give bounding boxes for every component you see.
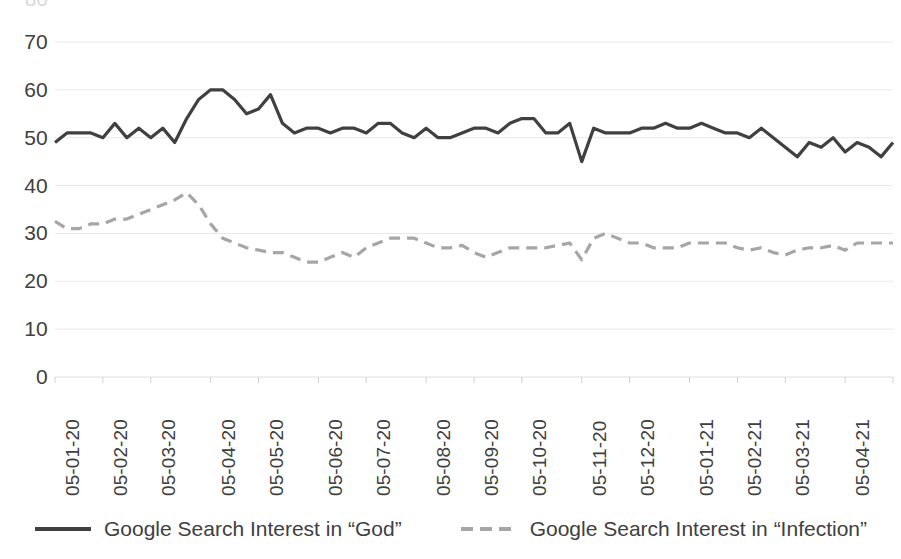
x-axis-tick-label-text: 05-03-21 bbox=[793, 392, 813, 496]
x-axis: 05-01-2005-02-2005-03-2005-04-2005-05-20… bbox=[0, 392, 901, 500]
x-axis-tick-label-text: 05-07-20 bbox=[374, 392, 394, 496]
x-axis-tick-label-text: 05-08-20 bbox=[434, 392, 454, 496]
x-axis-tick-label: 05-06-20 bbox=[326, 392, 346, 496]
y-axis-tick-label: 0 bbox=[4, 366, 48, 387]
y-axis-clipped-tick-label: 80 bbox=[4, 0, 48, 9]
x-axis-tick-label: 05-10-20 bbox=[530, 392, 550, 496]
plot-area bbox=[0, 0, 901, 392]
y-axis-tick-label: 10 bbox=[4, 318, 48, 339]
y-axis-tick-label: 40 bbox=[4, 175, 48, 196]
legend-item-infection[interactable]: Google Search Interest in “Infection” bbox=[460, 517, 867, 541]
legend-label-god: Google Search Interest in “God” bbox=[104, 517, 402, 541]
y-axis-tick-label: 20 bbox=[4, 270, 48, 291]
chart-canvas bbox=[0, 0, 901, 392]
x-axis-tick-label: 05-04-21 bbox=[853, 392, 873, 496]
google-trends-line-chart: 80 010203040506070 05-01-2005-02-2005-03… bbox=[0, 0, 901, 559]
series-line-god bbox=[55, 90, 893, 162]
legend-swatch-dashed-line bbox=[460, 522, 518, 536]
x-axis-tick-label-text: 05-02-21 bbox=[745, 392, 765, 496]
gridlines bbox=[55, 42, 893, 377]
x-axis-tick-label: 05-01-21 bbox=[697, 392, 717, 496]
x-axis-tick-label-text: 05-09-20 bbox=[482, 392, 502, 496]
chart-legend: Google Search Interest in “God” Google S… bbox=[0, 505, 901, 553]
x-axis-tick-label: 05-05-20 bbox=[267, 392, 287, 496]
x-axis-tick-label-text: 05-01-21 bbox=[697, 392, 717, 496]
x-axis-tick-label-text: 05-04-20 bbox=[219, 392, 239, 496]
x-axis-tick-label-text: 05-10-20 bbox=[530, 392, 550, 496]
x-axis-tick-label: 05-03-20 bbox=[159, 392, 179, 496]
x-axis-tick-label: 05-02-20 bbox=[111, 392, 131, 496]
y-axis-tick-label: 30 bbox=[4, 222, 48, 243]
legend-item-god[interactable]: Google Search Interest in “God” bbox=[34, 517, 402, 541]
x-axis-tick-label: 05-07-20 bbox=[374, 392, 394, 496]
x-axis-tick-label: 05-12-20 bbox=[638, 392, 658, 496]
x-axis-tick-label: 05-08-20 bbox=[434, 392, 454, 496]
legend-label-infection: Google Search Interest in “Infection” bbox=[530, 517, 867, 541]
x-axis-tick-label-text: 05-12-20 bbox=[638, 392, 658, 496]
y-axis-tick-label: 70 bbox=[4, 31, 48, 52]
x-axis-tick-label-text: 05-03-20 bbox=[159, 392, 179, 496]
x-axis-tick-marks bbox=[55, 377, 893, 383]
legend-swatch-solid-line bbox=[34, 522, 92, 536]
x-axis-tick-label-text: 05-11-20 bbox=[590, 392, 610, 496]
y-axis: 80 010203040506070 bbox=[0, 0, 48, 392]
series-line-infection bbox=[55, 193, 893, 262]
x-axis-tick-label-text: 05-04-21 bbox=[853, 392, 873, 496]
x-axis-tick-label: 05-03-21 bbox=[793, 392, 813, 496]
y-axis-tick-label: 60 bbox=[4, 79, 48, 100]
x-axis-tick-label-text: 05-01-20 bbox=[63, 392, 83, 496]
x-axis-tick-label: 05-04-20 bbox=[219, 392, 239, 496]
x-axis-tick-label-text: 05-06-20 bbox=[326, 392, 346, 496]
x-axis-tick-label: 05-11-20 bbox=[590, 392, 610, 496]
x-axis-tick-label: 05-01-20 bbox=[63, 392, 83, 496]
x-axis-tick-label: 05-09-20 bbox=[482, 392, 502, 496]
x-axis-tick-label-text: 05-02-20 bbox=[111, 392, 131, 496]
x-axis-tick-label-text: 05-05-20 bbox=[267, 392, 287, 496]
y-axis-tick-label: 50 bbox=[4, 127, 48, 148]
x-axis-tick-label: 05-02-21 bbox=[745, 392, 765, 496]
